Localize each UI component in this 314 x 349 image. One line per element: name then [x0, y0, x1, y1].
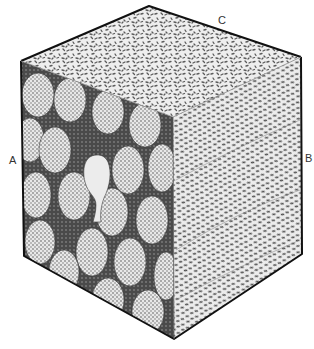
- label-c: C: [218, 15, 226, 26]
- label-a: A: [9, 155, 16, 166]
- label-b: B: [305, 153, 312, 164]
- cube-diagram: A B C: [0, 0, 314, 349]
